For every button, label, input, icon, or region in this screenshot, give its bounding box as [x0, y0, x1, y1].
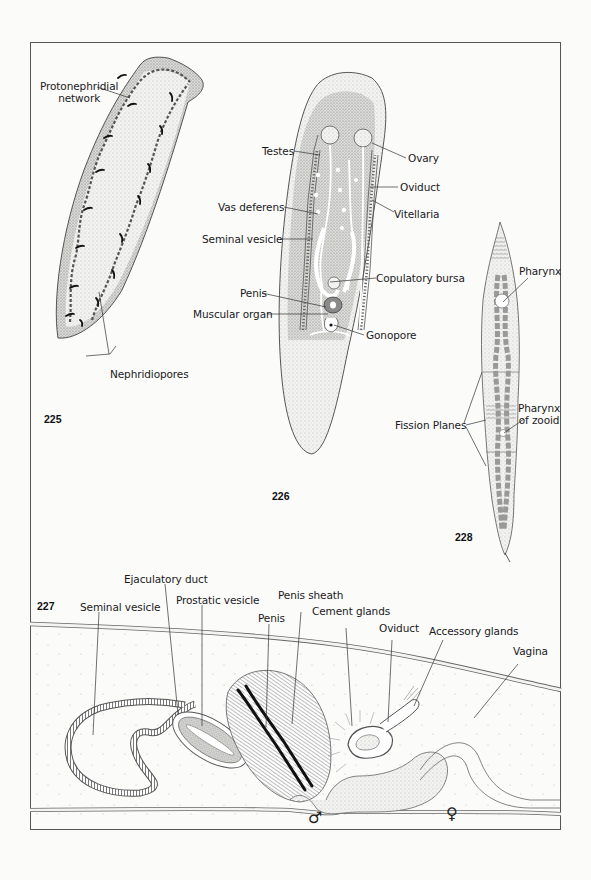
- label-vitellaria: Vitellaria: [394, 208, 439, 220]
- figure-227-section: [30, 584, 561, 815]
- label-line-1: Protonephridial: [40, 80, 118, 92]
- label-protonephridial-network: Protonephridial network: [40, 80, 118, 104]
- label-seminal-vesicle-227: Seminal vesicle: [80, 601, 160, 613]
- label-gonopore: Gonopore: [366, 329, 416, 341]
- label-penis-sheath: Penis sheath: [278, 589, 343, 601]
- label-vas-deferens: Vas deferens: [218, 201, 284, 213]
- label-line-2: of zooid: [519, 414, 560, 426]
- figure-number-226: 226: [272, 490, 290, 502]
- label-testes: Testes: [262, 145, 294, 157]
- figure-226-worm: [262, 72, 406, 454]
- plate-drawing: [0, 0, 591, 880]
- label-line-2: network: [58, 92, 100, 104]
- figure-number-227: 227: [37, 600, 55, 612]
- label-fission-planes: Fission Planes: [395, 419, 466, 431]
- label-pharynx-of-zooid: Pharynx of zooid: [518, 402, 560, 426]
- label-vagina: Vagina: [513, 645, 548, 657]
- label-oviduct: Oviduct: [400, 181, 440, 193]
- label-line-1: Pharynx: [518, 402, 560, 414]
- female-symbol-icon: ♀: [446, 804, 458, 823]
- label-penis-227: Penis: [258, 612, 285, 624]
- label-muscular-organ: Muscular organ: [193, 308, 273, 320]
- label-seminal-vesicle: Seminal vesicle: [202, 233, 282, 245]
- figure-number-228: 228: [455, 531, 473, 543]
- label-pharynx: Pharynx: [519, 265, 561, 277]
- label-penis: Penis: [240, 287, 267, 299]
- label-oviduct-227: Oviduct: [379, 622, 419, 634]
- label-ovary: Ovary: [408, 152, 439, 164]
- label-ejaculatory-duct: Ejaculatory duct: [124, 573, 208, 585]
- label-prostatic-vesicle: Prostatic vesicle: [176, 594, 259, 606]
- label-nephridiopores: Nephridiopores: [110, 368, 189, 380]
- anatomy-plate: Protonephridial network Nephridiopores 2…: [0, 0, 591, 880]
- label-cement-glands: Cement glands: [312, 605, 390, 617]
- label-accessory-glands: Accessory glands: [429, 625, 518, 637]
- label-copulatory-bursa: Copulatory bursa: [376, 272, 465, 284]
- figure-number-225: 225: [44, 413, 62, 425]
- male-symbol-icon: ♂: [308, 808, 322, 827]
